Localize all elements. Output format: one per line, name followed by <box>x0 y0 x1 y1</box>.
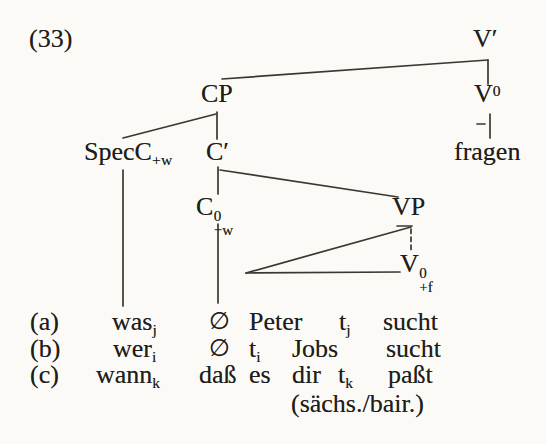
dialect-note: (sächs./bair.) <box>291 391 424 417</box>
node-vp: VP <box>392 194 425 220</box>
example-a-null-complementizer: ∅ <box>209 310 230 334</box>
example-a-label: (a) <box>30 309 59 335</box>
edge-cbar-vp <box>220 170 398 197</box>
node-c0: C0−w <box>196 194 233 226</box>
vf-scripts: 0+f <box>419 266 433 283</box>
node-cp: CP <box>201 81 233 107</box>
node-specc: SpecC+w <box>84 139 173 167</box>
example-a-word-sucht: sucht <box>383 309 438 335</box>
example-b-word-jobs: Jobs <box>292 336 338 362</box>
example-b-label: (b) <box>30 336 60 362</box>
vp-triangle-base <box>246 272 400 273</box>
scanned-figure-page: (33) V′ CP V0 SpecC+w C′ fragen C0−w VP … <box>0 0 546 444</box>
edge-cp-specc <box>123 114 216 138</box>
node-vbar: V′ <box>473 26 497 52</box>
example-c-word-dass: daß <box>199 362 237 388</box>
example-a-word-peter: Peter <box>249 309 302 335</box>
example-c-trace: tk <box>338 362 353 390</box>
node-v0: V0 <box>474 81 501 107</box>
vp-triangle-hypotenuse <box>246 227 411 273</box>
example-b-word-sucht: sucht <box>386 336 441 362</box>
node-v0-lexical-fragen: fragen <box>454 139 520 165</box>
example-a-trace: tj <box>339 309 351 337</box>
example-b-null-complementizer: ∅ <box>209 337 230 361</box>
figure-number: (33) <box>29 26 72 52</box>
example-c-word-wann: wannk <box>96 362 160 390</box>
example-c-word-dir: dir <box>292 362 321 388</box>
c0-scripts: 0−w <box>214 209 233 226</box>
edge-cp-vprime <box>222 60 488 79</box>
example-c-word-es: es <box>249 362 271 388</box>
example-c-label: (c) <box>30 362 59 388</box>
node-vf: V0+f <box>400 251 433 283</box>
tree-branch-lines <box>0 0 546 444</box>
node-cbar: C′ <box>206 139 229 165</box>
example-c-word-passt: paßt <box>388 362 433 388</box>
